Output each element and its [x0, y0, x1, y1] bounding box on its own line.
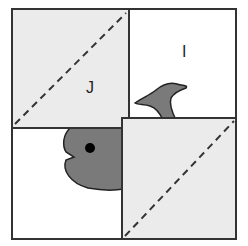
square-i	[129, 9, 236, 128]
label-i: I	[182, 43, 186, 60]
quilt-puzzle-diagram: J I	[0, 0, 248, 246]
whale-body	[64, 128, 124, 190]
label-j: J	[86, 79, 94, 96]
whale-eye	[85, 143, 95, 153]
